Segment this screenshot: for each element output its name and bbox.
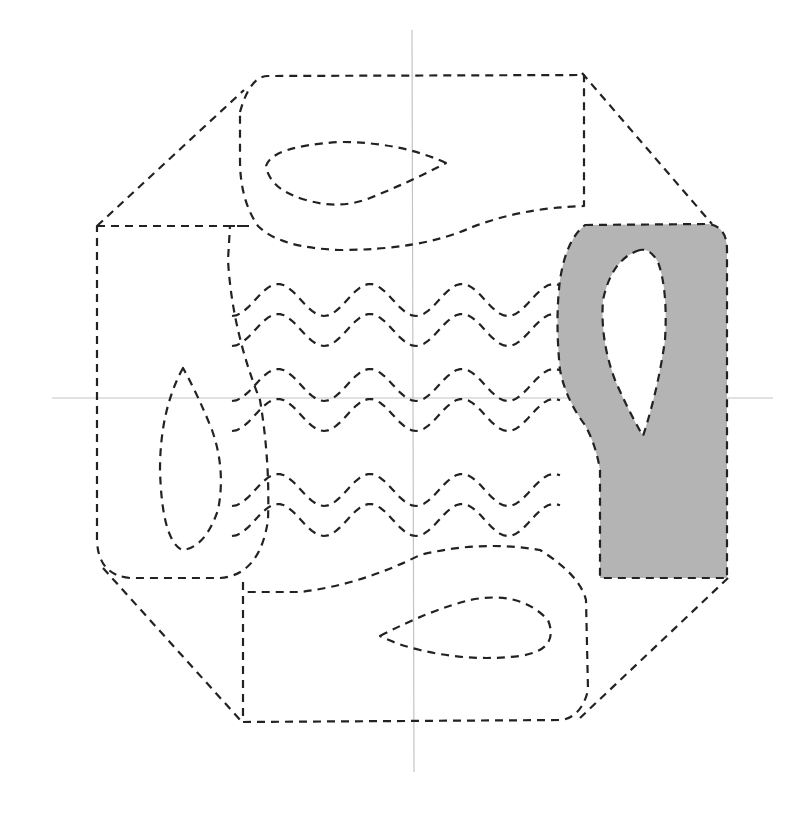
wave-line <box>232 399 560 431</box>
octagon-top-left-edge <box>97 90 244 226</box>
octagon-bottom-right-edge <box>580 578 728 718</box>
bottom-teardrop <box>380 598 551 659</box>
wavy-lines <box>232 284 560 536</box>
diagram-canvas <box>0 0 807 815</box>
wave-line <box>232 284 560 316</box>
top-teardrop <box>266 142 446 205</box>
wave-line <box>232 504 560 536</box>
bottom-block-outline <box>243 546 588 722</box>
wave-line <box>232 314 560 346</box>
octagon-bottom-left-edge <box>103 568 242 722</box>
left-teardrop <box>160 368 221 550</box>
octagon-top-right-edge <box>582 73 712 224</box>
wave-line <box>232 369 560 401</box>
wave-line <box>232 474 560 506</box>
left-block-outline <box>97 226 268 578</box>
